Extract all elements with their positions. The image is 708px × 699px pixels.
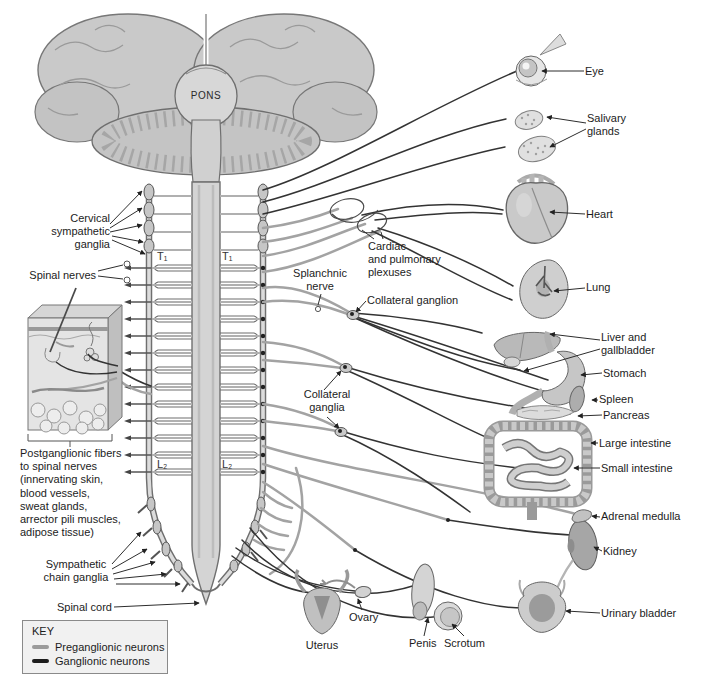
eye-illustration: [516, 34, 566, 86]
penis-scrotum-illustration: [409, 563, 462, 630]
label-liver-gallbladder: Liver and gallbladder: [601, 331, 655, 357]
urinary-bladder-illustration: [518, 580, 565, 632]
label-sympathetic-chain-ganglia: Sympathetic chain ganglia: [28, 558, 124, 584]
label-l2-left: L₂: [157, 458, 167, 471]
label-splanchnic-nerve: Splanchnic nerve: [284, 267, 356, 293]
label-kidney: Kidney: [603, 545, 637, 558]
figure-sympathetic-nervous-system: PONS Cervical sympathetic ganglia Spinal…: [0, 0, 708, 699]
medulla: [191, 120, 221, 182]
heart-illustration: [506, 174, 567, 243]
skin-inset-illustration: [28, 288, 122, 447]
label-collateral-ganglion: Collateral ganglion: [367, 294, 458, 307]
label-heart: Heart: [586, 208, 613, 221]
label-lung: Lung: [586, 281, 610, 294]
spinal-cord-illustration: [192, 182, 220, 604]
pancreas-illustration: [517, 406, 574, 420]
label-pons: PONS: [181, 90, 231, 102]
label-urinary-bladder: Urinary bladder: [601, 607, 676, 620]
label-t1-left: T₁: [157, 250, 167, 263]
label-stomach: Stomach: [603, 367, 646, 380]
key-label-ganglionic: Ganglionic neurons: [55, 655, 150, 667]
label-ovary: Ovary: [349, 611, 378, 624]
label-uterus: Uterus: [296, 639, 348, 652]
label-eye: Eye: [585, 65, 604, 78]
adrenal-kidney-illustration: [553, 510, 600, 600]
label-collateral-ganglia: Collateral ganglia: [294, 388, 360, 414]
label-large-intestine: Large intestine: [599, 437, 671, 450]
key-row-preganglionic: Preganglionic neurons: [32, 640, 167, 654]
key-label-preganglionic: Preganglionic neurons: [55, 641, 164, 653]
small-intestine-illustration: [504, 443, 569, 487]
label-spleen: Spleen: [599, 393, 633, 406]
label-salivary-glands: Salivary glands: [587, 112, 626, 138]
label-postganglionic-fibers-note: Postganglionic fibers to spinal nerves (…: [20, 447, 138, 539]
label-l2-right: L₂: [222, 458, 232, 471]
label-pancreas: Pancreas: [603, 409, 649, 422]
key-box: KEY Preganglionic neurons Ganglionic neu…: [22, 620, 168, 674]
large-intestine-illustration: [489, 426, 587, 520]
label-t1-right: T₁: [222, 250, 232, 263]
lung-illustration: [520, 260, 568, 318]
key-row-ganglionic: Ganglionic neurons: [32, 654, 167, 668]
preganglionic-swatch: [32, 645, 49, 649]
ganglionic-swatch: [32, 659, 49, 663]
label-cervical-sympathetic-ganglia: Cervical sympathetic ganglia: [14, 212, 110, 252]
label-spinal-nerves: Spinal nerves: [6, 269, 96, 282]
label-spinal-cord: Spinal cord: [36, 601, 112, 614]
label-cardiac-pulmonary-plexuses: Cardiac and pulmonary plexuses: [368, 240, 441, 280]
label-adrenal-medulla: Adrenal medulla: [601, 510, 681, 523]
label-small-intestine: Small intestine: [601, 462, 673, 475]
salivary-glands-illustration: [513, 108, 558, 166]
label-penis: Penis: [409, 637, 437, 650]
key-title: KEY: [32, 625, 167, 637]
label-scrotum: Scrotum: [444, 637, 485, 650]
